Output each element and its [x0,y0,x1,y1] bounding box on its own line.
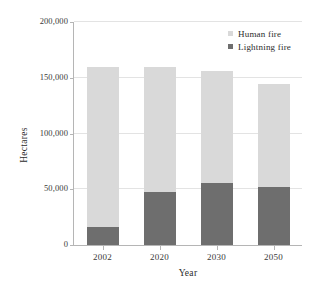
y-axis-tick-label: 50,000 [44,183,68,193]
x-axis-tick-label: 2030 [187,252,247,262]
y-axis-tick-label: 150,000 [40,72,68,82]
legend-item[interactable]: Human fire [228,27,291,40]
bar-segment[interactable] [87,67,119,227]
bar-chart: Hectares 050,000100,000150,000200,000 20… [0,0,317,290]
x-axis-tick-mark [160,246,161,250]
x-axis-tick-label: 2020 [130,252,190,262]
bar-stack[interactable] [258,22,290,245]
bar-stack[interactable] [87,22,119,245]
bar-stack[interactable] [144,22,176,245]
plot-area [74,22,302,245]
x-axis-tick-label: 2050 [244,252,304,262]
y-axis-title: Hectares [19,127,29,163]
x-axis-tick-label: 2002 [73,252,133,262]
x-axis-tick-mark [274,246,275,250]
legend-swatch-icon [228,44,233,49]
bar-segment[interactable] [87,227,119,245]
legend-item-label: Lightning fire [238,42,291,52]
bar-segment[interactable] [144,67,176,192]
legend-item[interactable]: Lightning fire [228,40,291,53]
bar-segment[interactable] [258,187,290,245]
y-axis-tick-label: 0 [64,239,68,249]
legend-swatch-icon [228,31,233,36]
x-axis-line [73,245,302,246]
x-axis-tick-mark [103,246,104,250]
bar-segment[interactable] [258,84,290,187]
bar-segment[interactable] [144,192,176,245]
bar-segment[interactable] [201,183,233,245]
y-axis-tick-label: 100,000 [40,128,68,138]
legend-item-label: Human fire [238,29,281,39]
y-axis-tick-label: 200,000 [40,16,68,26]
chart-legend: Human fireLightning fire [228,27,291,53]
bar-stack[interactable] [201,22,233,245]
x-axis-title: Year [74,268,302,278]
bar-segment[interactable] [201,71,233,183]
x-axis-tick-mark [217,246,218,250]
